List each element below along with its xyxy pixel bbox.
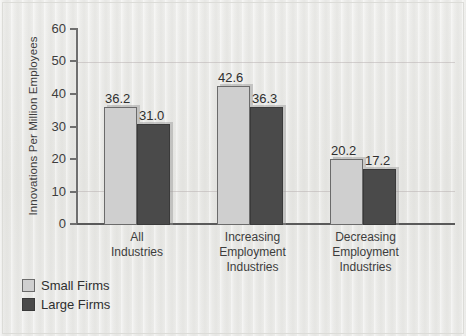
- y-tick-label-50: 50: [26, 54, 66, 67]
- legend-swatch-large-firms: [22, 298, 35, 311]
- y-tick-40: [70, 93, 77, 95]
- legend: Small Firms Large Firms: [22, 276, 110, 314]
- bar-large-firms-decreasing-employment[interactable]: [363, 169, 396, 225]
- bar-large-firms-increasing-employment[interactable]: [250, 107, 283, 225]
- bar-value-large-firms-decreasing-employment: 17.2: [365, 154, 390, 167]
- category-label-all-industries: All Industries: [92, 230, 182, 260]
- y-tick-30: [70, 126, 77, 128]
- y-tick-label-30: 30: [26, 120, 66, 133]
- legend-label-large-firms: Large Firms: [41, 298, 110, 311]
- bar-value-small-firms-increasing-employment: 42.6: [218, 71, 243, 84]
- category-label-increasing-employment-industries: Increasing Employment Industries: [205, 230, 300, 275]
- chart-page: Innovations Per Million Employees 60 50 …: [0, 0, 466, 336]
- bar-value-small-firms-all-industries: 36.2: [105, 92, 130, 105]
- y-tick-10: [70, 191, 77, 193]
- y-tick-50: [70, 60, 77, 62]
- bar-value-small-firms-decreasing-employment: 20.2: [331, 144, 356, 157]
- bar-small-firms-all-industries[interactable]: [104, 107, 137, 225]
- y-tick-label-10: 10: [26, 185, 66, 198]
- legend-item-large-firms[interactable]: Large Firms: [22, 295, 110, 314]
- bar-small-firms-increasing-employment[interactable]: [217, 86, 250, 225]
- y-tick-label-20: 20: [26, 152, 66, 165]
- legend-item-small-firms[interactable]: Small Firms: [22, 276, 110, 295]
- y-tick-label-0: 0: [26, 217, 66, 230]
- bar-value-large-firms-all-industries: 31.0: [139, 109, 164, 122]
- y-tick-label-40: 40: [26, 87, 66, 100]
- scan-rule: [78, 62, 455, 63]
- y-tick-60: [70, 28, 77, 30]
- y-tick-20: [70, 158, 77, 160]
- plot-area: Innovations Per Million Employees 60 50 …: [0, 0, 466, 336]
- category-label-decreasing-employment-industries: Decreasing Employment Industries: [318, 230, 413, 275]
- legend-swatch-small-firms: [22, 279, 35, 292]
- y-tick-label-60: 60: [26, 22, 66, 35]
- bar-small-firms-decreasing-employment[interactable]: [330, 159, 363, 225]
- legend-label-small-firms: Small Firms: [41, 279, 110, 292]
- bar-value-large-firms-increasing-employment: 36.3: [252, 92, 277, 105]
- bar-large-firms-all-industries[interactable]: [137, 124, 170, 225]
- y-tick-0: [70, 223, 77, 225]
